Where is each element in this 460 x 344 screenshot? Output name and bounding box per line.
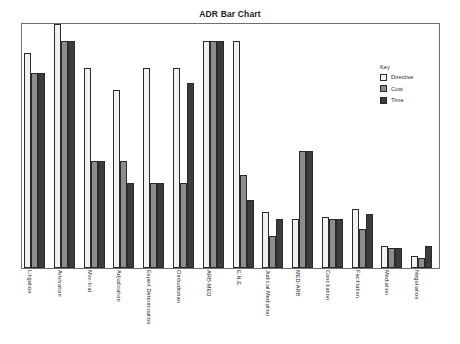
legend-item[interactable]: Directive [380, 73, 436, 81]
x-axis-label: E.N.E. [236, 270, 242, 287]
legend-item-label: Directive [391, 73, 414, 81]
bar-group [381, 24, 402, 268]
bar [388, 248, 395, 268]
bar [54, 24, 61, 268]
x-axis-labels: LitigationArbitrationMini-trialAdjudicat… [22, 270, 439, 342]
bar [336, 219, 343, 268]
bar [322, 217, 329, 268]
bar [203, 41, 210, 268]
x-axis-label: Arbitration [57, 270, 63, 297]
bar [84, 68, 91, 268]
bar [91, 161, 98, 268]
bar-group [233, 24, 254, 268]
bar-group [143, 24, 164, 268]
bar [113, 90, 120, 268]
x-axis-label: Expert Determination [146, 270, 152, 325]
bar [425, 246, 432, 268]
bar [157, 183, 164, 268]
bar [299, 151, 306, 268]
bar-group [292, 24, 313, 268]
bar [240, 175, 247, 268]
bar [352, 209, 359, 268]
bar [38, 73, 45, 268]
x-axis-label: Litigation [27, 270, 33, 293]
adr-bar-chart: ADR Bar Chart LitigationArbitrationMini-… [0, 0, 460, 344]
x-axis-label: Negotiation [414, 270, 420, 299]
bar-group [411, 24, 432, 268]
bar [98, 161, 105, 268]
legend-swatch-time [380, 97, 387, 104]
bar [210, 41, 217, 268]
x-axis-label: MED-ARB [295, 270, 301, 297]
bars-layer [22, 24, 439, 268]
bar [329, 219, 336, 268]
x-axis-label: Judicial Mediation [265, 270, 271, 316]
bar [381, 246, 388, 268]
bar-group [322, 24, 343, 268]
bar-group [54, 24, 75, 268]
x-axis-label: Adjudication [116, 270, 122, 302]
bar-group [113, 24, 134, 268]
bar [127, 183, 134, 268]
bar [187, 83, 194, 268]
bar [120, 161, 127, 268]
legend-swatch-cost [380, 85, 387, 92]
legend-item[interactable]: Cost [380, 85, 436, 93]
legend-item[interactable]: Time [380, 96, 436, 104]
legend-swatch-directive [380, 74, 387, 81]
x-axis-label: Facilitation [355, 270, 361, 298]
bar [366, 214, 373, 268]
bar-group [173, 24, 194, 268]
bar [276, 219, 283, 268]
x-axis-label: Mini-trial [87, 270, 93, 292]
bar [61, 41, 68, 268]
x-axis-label: Mediation [384, 270, 390, 295]
x-axis-label: ARB-MED [206, 270, 212, 297]
x-axis-label: Ombudsman [176, 270, 182, 303]
bar [418, 258, 425, 268]
legend-item-label: Time [391, 96, 404, 104]
chart-title: ADR Bar Chart [0, 9, 460, 19]
bar [217, 41, 224, 268]
bar [233, 41, 240, 268]
legend-item-label: Cost [391, 85, 403, 93]
bar-group [24, 24, 45, 268]
bar-group [262, 24, 283, 268]
bar [306, 151, 313, 268]
bar [143, 68, 150, 268]
legend: Key DirectiveCostTime [380, 64, 436, 108]
bar [180, 183, 187, 268]
bar [359, 229, 366, 268]
legend-title: Key [380, 64, 436, 70]
bar [150, 183, 157, 268]
bar [411, 256, 418, 268]
bar [292, 219, 299, 268]
bar-group [203, 24, 224, 268]
bar [247, 200, 254, 268]
bar [24, 53, 31, 268]
bar [262, 212, 269, 268]
bar [31, 73, 38, 268]
bar [269, 236, 276, 268]
bar [68, 41, 75, 268]
bar-group [352, 24, 373, 268]
bar [173, 68, 180, 268]
x-axis-label: Conciliation [325, 270, 331, 300]
bar [395, 248, 402, 268]
bar-group [84, 24, 105, 268]
legend-rows: DirectiveCostTime [380, 73, 436, 104]
